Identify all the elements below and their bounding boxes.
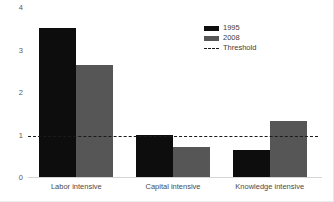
legend-item-label: Threshold [223, 44, 256, 52]
dashed-line-icon [204, 48, 219, 49]
color-swatch-icon [204, 26, 219, 31]
y-axis-tick-label: 0 [19, 174, 23, 182]
legend-item[interactable]: 2008 [204, 34, 284, 42]
x-axis-category-label: Capital intensive [125, 182, 222, 192]
bar-2008-capital[interactable] [173, 147, 210, 178]
color-swatch-icon [204, 36, 219, 41]
x-axis-line [28, 177, 322, 178]
bar-1995-capital[interactable] [136, 135, 173, 178]
y-axis-tick-label: 2 [19, 89, 23, 97]
threshold-line [28, 136, 318, 137]
x-axis-labels: Labor intensiveCapital intensiveKnowledg… [28, 182, 318, 192]
x-axis-category-label: Labor intensive [28, 182, 125, 192]
chart-title [34, 0, 294, 4]
y-axis-tick-label: 4 [19, 4, 23, 12]
bar-chart: 01234 Labor intensiveCapital intensiveKn… [0, 0, 334, 202]
legend-item[interactable]: Threshold [204, 44, 284, 52]
legend-item-label: 1995 [223, 24, 240, 32]
bar-1995-labor[interactable] [39, 28, 76, 178]
legend-item[interactable]: 1995 [204, 24, 284, 32]
legend-item-label: 2008 [223, 34, 240, 42]
bar-2008-knowledge[interactable] [270, 121, 307, 178]
chart-legend: 19952008Threshold [204, 24, 284, 54]
y-axis-tick-label: 1 [19, 132, 23, 140]
y-axis-tick-label: 3 [19, 47, 23, 55]
bar-group [28, 8, 125, 178]
x-axis-category-label: Knowledge intensive [221, 182, 318, 192]
bar-1995-knowledge[interactable] [233, 150, 270, 178]
bar-2008-labor[interactable] [76, 65, 113, 178]
